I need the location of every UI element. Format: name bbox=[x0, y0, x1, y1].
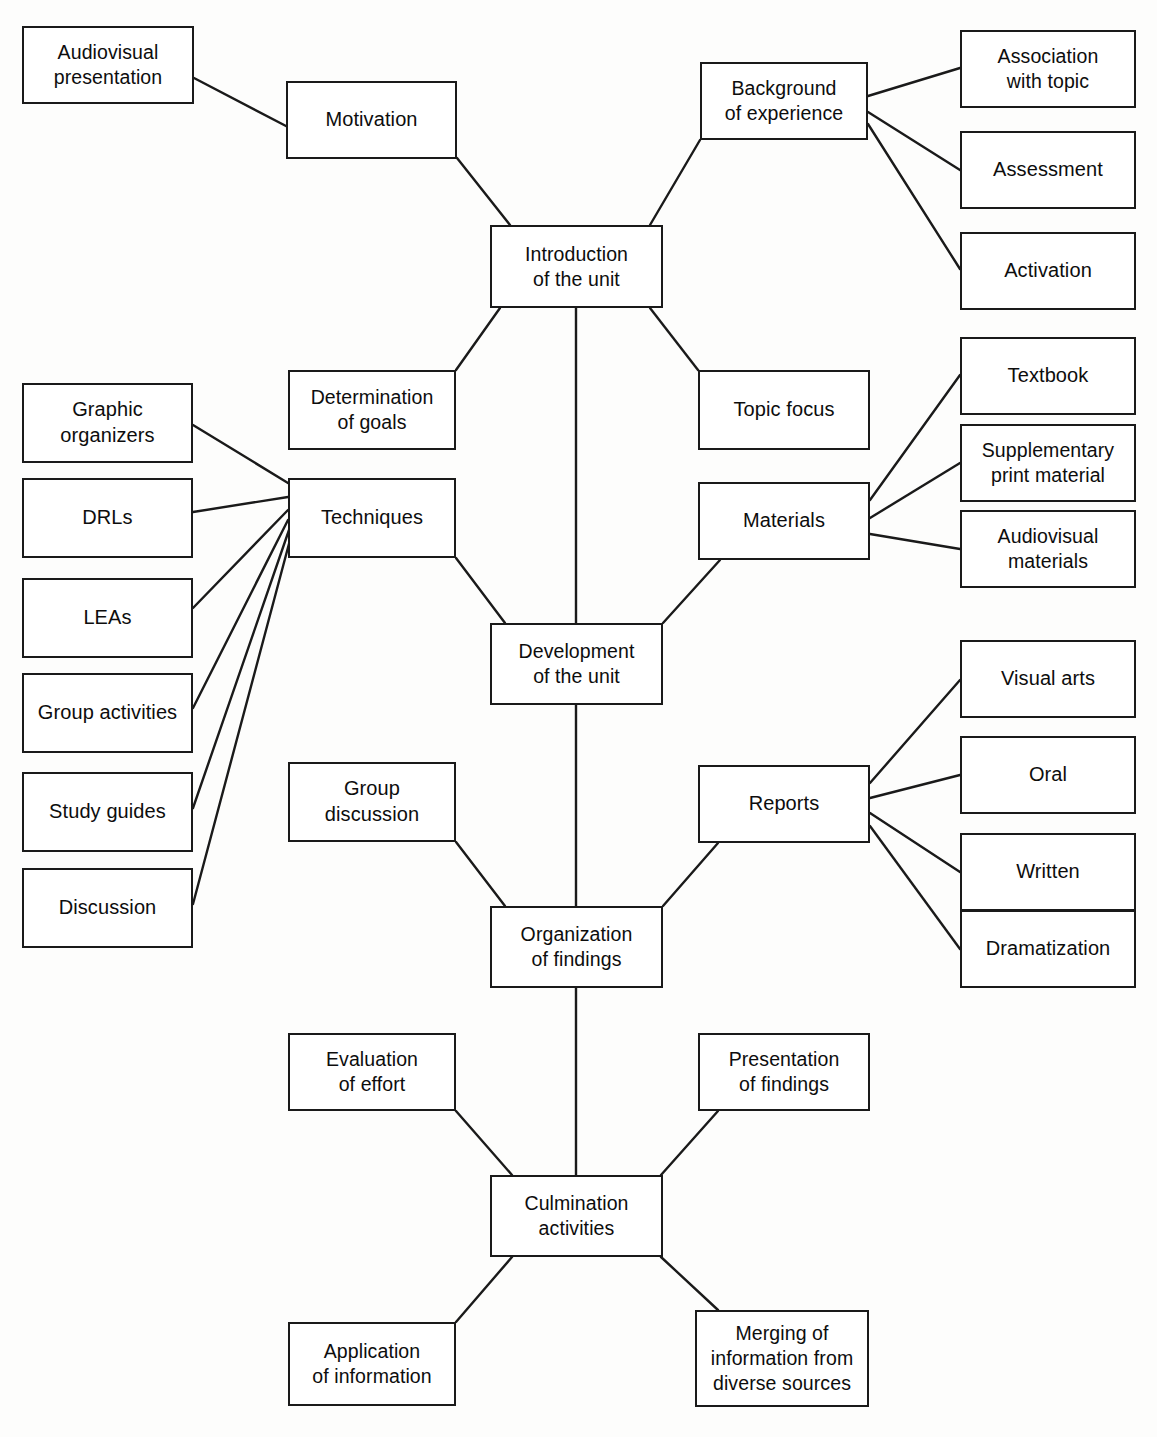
node-culmination_activities[interactable]: Culmination activities bbox=[490, 1175, 663, 1257]
node-audiovisual_materials[interactable]: Audiovisual materials bbox=[960, 510, 1136, 588]
connector-techniques-to-development_of_the_unit bbox=[456, 558, 505, 623]
node-materials[interactable]: Materials bbox=[698, 482, 870, 560]
node-assessment[interactable]: Assessment bbox=[960, 131, 1136, 209]
node-evaluation_of_effort[interactable]: Evaluation of effort bbox=[288, 1033, 456, 1111]
connector-graphic_organizers-to-techniques bbox=[193, 425, 288, 483]
node-introduction_of_the_unit[interactable]: Introduction of the unit bbox=[490, 225, 663, 308]
node-discussion[interactable]: Discussion bbox=[22, 868, 193, 948]
node-drls[interactable]: DRLs bbox=[22, 478, 193, 558]
node-graphic_organizers[interactable]: Graphic organizers bbox=[22, 383, 193, 463]
node-background_of_experience[interactable]: Background of experience bbox=[700, 62, 868, 140]
connector-introduction_of_the_unit-to-determination_of_goals bbox=[456, 308, 500, 370]
node-written[interactable]: Written bbox=[960, 833, 1136, 911]
node-textbook[interactable]: Textbook bbox=[960, 337, 1136, 415]
connector-materials-to-textbook bbox=[870, 375, 960, 500]
diagram-canvas: Audiovisual presentationMotivationBackgr… bbox=[0, 0, 1157, 1437]
connector-leas-to-techniques bbox=[193, 510, 288, 608]
node-activation[interactable]: Activation bbox=[960, 232, 1136, 310]
connector-evaluation_of_effort-to-culmination_activities bbox=[456, 1111, 512, 1175]
connector-background_of_experience-to-assessment bbox=[868, 112, 960, 170]
node-determination_of_goals[interactable]: Determination of goals bbox=[288, 370, 456, 450]
node-reports[interactable]: Reports bbox=[698, 765, 870, 843]
node-techniques[interactable]: Techniques bbox=[288, 478, 456, 558]
connector-materials-to-audiovisual_materials bbox=[870, 534, 960, 549]
connector-background_of_experience-to-activation bbox=[868, 124, 960, 269]
connector-discussion-to-techniques bbox=[193, 540, 290, 904]
connector-reports-to-oral bbox=[870, 775, 960, 798]
connector-group_discussion-to-organization_of_findings bbox=[456, 842, 505, 906]
node-motivation[interactable]: Motivation bbox=[286, 81, 457, 159]
node-oral[interactable]: Oral bbox=[960, 736, 1136, 814]
node-organization_of_findings[interactable]: Organization of findings bbox=[490, 906, 663, 988]
connector-audiovisual_presentation-to-motivation bbox=[194, 78, 286, 126]
connector-motivation-to-introduction_of_the_unit bbox=[457, 158, 510, 225]
node-application_of_information[interactable]: Application of information bbox=[288, 1322, 456, 1406]
node-supplementary_print[interactable]: Supplementary print material bbox=[960, 424, 1136, 502]
node-presentation_of_findings[interactable]: Presentation of findings bbox=[698, 1033, 870, 1111]
connector-reports-to-organization_of_findings bbox=[663, 843, 718, 906]
connector-presentation_of_findings-to-culmination_activities bbox=[661, 1111, 718, 1175]
connector-materials-to-development_of_the_unit bbox=[663, 560, 720, 623]
connector-drls-to-techniques bbox=[193, 497, 288, 512]
node-leas[interactable]: LEAs bbox=[22, 578, 193, 658]
connector-background_of_experience-to-introduction_of_the_unit bbox=[650, 140, 700, 225]
node-study_guides[interactable]: Study guides bbox=[22, 772, 193, 852]
connector-study_guides-to-techniques bbox=[193, 530, 289, 808]
connector-reports-to-visual_arts bbox=[870, 680, 960, 783]
connector-materials-to-supplementary_print bbox=[870, 463, 960, 518]
connector-reports-to-written bbox=[870, 813, 960, 872]
connector-culmination_activities-to-merging_of_information bbox=[661, 1257, 718, 1310]
connector-culmination_activities-to-application_of_information bbox=[456, 1257, 512, 1322]
node-topic_focus[interactable]: Topic focus bbox=[698, 370, 870, 450]
node-dramatization[interactable]: Dramatization bbox=[960, 910, 1136, 988]
node-group_activities[interactable]: Group activities bbox=[22, 673, 193, 753]
node-visual_arts[interactable]: Visual arts bbox=[960, 640, 1136, 718]
node-development_of_the_unit[interactable]: Development of the unit bbox=[490, 623, 663, 705]
node-merging_of_information[interactable]: Merging of information from diverse sour… bbox=[695, 1310, 869, 1407]
connector-reports-to-dramatization bbox=[870, 826, 960, 949]
connector-background_of_experience-to-association_with_topic bbox=[868, 68, 960, 96]
node-audiovisual_presentation[interactable]: Audiovisual presentation bbox=[22, 26, 194, 104]
connector-introduction_of_the_unit-to-topic_focus bbox=[650, 308, 698, 370]
connector-group_activities-to-techniques bbox=[193, 520, 288, 708]
node-group_discussion[interactable]: Group discussion bbox=[288, 762, 456, 842]
node-association_with_topic[interactable]: Association with topic bbox=[960, 30, 1136, 108]
